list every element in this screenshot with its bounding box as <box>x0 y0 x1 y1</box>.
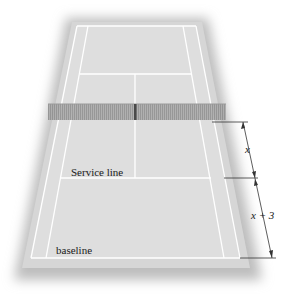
dimension-label-x-plus-3: x + 3 <box>250 209 275 221</box>
arrow-up-icon <box>241 122 245 129</box>
dimension-label-x: x <box>244 143 250 155</box>
baseline-label: baseline <box>56 244 92 256</box>
net <box>48 104 226 120</box>
arrow-up-icon <box>254 179 258 186</box>
tennis-court-figure: Service line baseline x x + 3 <box>0 0 292 296</box>
arrow-down-icon <box>269 250 273 258</box>
net-center-strap <box>134 104 137 120</box>
service-line-label: Service line <box>71 166 123 178</box>
arrow-down-icon <box>252 171 256 178</box>
